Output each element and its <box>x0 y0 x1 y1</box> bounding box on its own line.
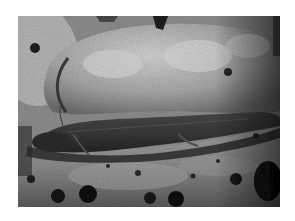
photograph <box>18 16 280 207</box>
lungfish-on-rocks-image <box>18 16 280 207</box>
